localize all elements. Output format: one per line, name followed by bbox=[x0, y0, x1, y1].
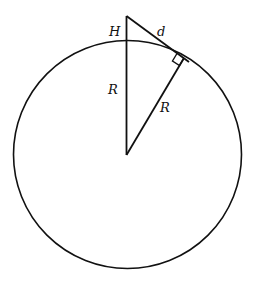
distance-label: d bbox=[157, 24, 165, 39]
horizon-diagram: H d R R bbox=[0, 0, 254, 283]
height-label: H bbox=[108, 24, 121, 39]
radius-slant-label: R bbox=[159, 100, 170, 115]
slant-radius-line bbox=[127, 58, 185, 155]
radius-vertical-label: R bbox=[107, 82, 118, 97]
tangent-line-d bbox=[127, 16, 190, 62]
